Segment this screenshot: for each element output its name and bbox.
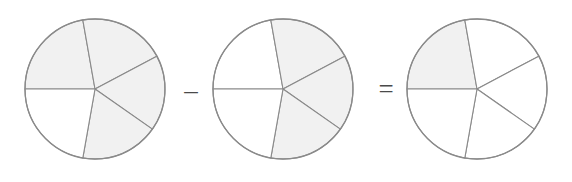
pie-sector-unshaded	[213, 89, 283, 158]
pie-circle-minuend	[25, 19, 165, 159]
minus-operator: –	[177, 70, 205, 110]
fraction-diagram: – =	[0, 0, 572, 182]
pie-sector-unshaded	[407, 89, 477, 158]
pie-sector-unshaded	[25, 89, 95, 158]
pie-circle-difference	[407, 19, 547, 159]
pie-canvas-container	[0, 0, 572, 182]
equals-operator: =	[372, 69, 400, 109]
pie-diagram-svg	[0, 0, 572, 182]
pies-group	[25, 19, 547, 159]
pie-circle-subtrahend	[213, 19, 353, 159]
